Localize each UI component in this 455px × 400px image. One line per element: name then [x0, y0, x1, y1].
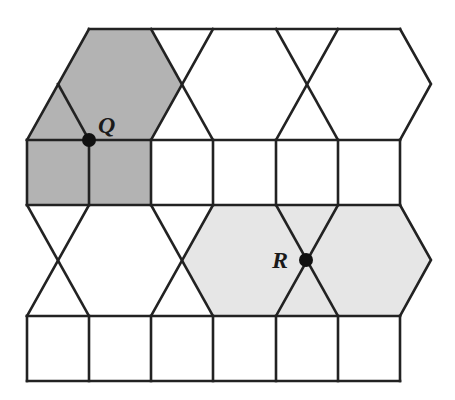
tessellation-diagram: Q R — [0, 0, 455, 400]
point-r — [299, 253, 313, 267]
point-q-label: Q — [98, 112, 115, 138]
point-r-label: R — [271, 247, 288, 273]
point-q — [82, 133, 96, 147]
